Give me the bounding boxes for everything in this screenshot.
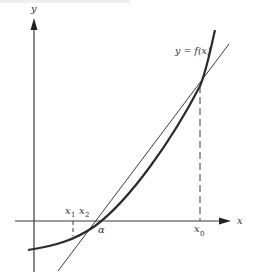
x2-label: x 2 — [79, 205, 89, 219]
x1-label: x 1 — [65, 205, 75, 219]
root-alpha-label: α — [98, 224, 105, 235]
svg-text:2: 2 — [85, 211, 89, 219]
x0-label: x 0 — [194, 223, 204, 238]
x-axis-arrow-icon — [219, 218, 231, 225]
y-axis — [31, 18, 38, 272]
y-axis-label: y — [30, 3, 37, 14]
curve-label: y = f(x) — [174, 45, 211, 56]
svg-text:0: 0 — [200, 230, 204, 238]
secant-method-diagram: y x y = f(x) x 1 x 2 α x 0 — [0, 0, 254, 280]
svg-text:1: 1 — [71, 211, 75, 219]
y-axis-arrow-icon — [31, 18, 38, 30]
function-curve — [28, 30, 215, 250]
x-axis-label: x — [237, 215, 243, 226]
